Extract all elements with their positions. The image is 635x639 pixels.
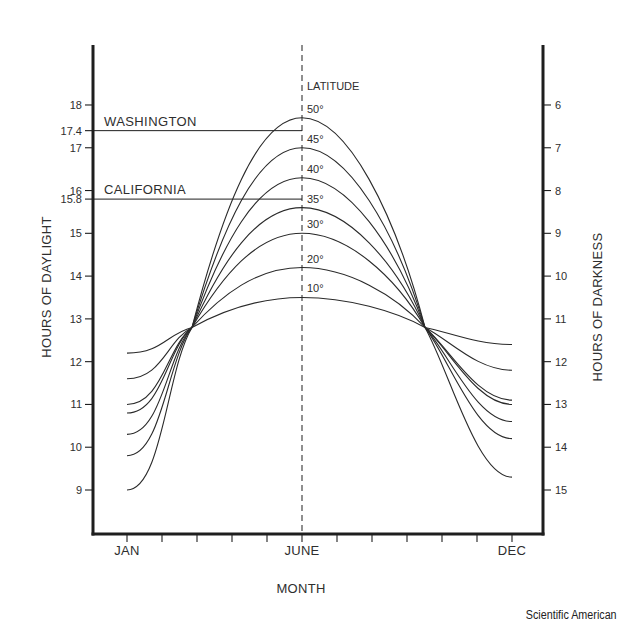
daylight-chart: 910111213141515.8161717.4186789101112131…: [0, 0, 635, 639]
credit-text: Scientific American: [526, 608, 617, 622]
chart-canvas: 910111213141515.8161717.4186789101112131…: [0, 0, 635, 639]
latitude-label-30: 30°: [307, 218, 324, 230]
right-tick-label: 12: [555, 356, 567, 368]
left-tick-label: 16: [70, 185, 82, 197]
left-tick-label: 12: [70, 356, 82, 368]
month-label-dec: DEC: [498, 543, 526, 558]
right-tick-label: 11: [555, 313, 566, 325]
left-tick-label: 9: [76, 484, 82, 496]
right-tick-label: 14: [555, 441, 567, 453]
left-tick-label: 18: [70, 99, 82, 111]
latitude-label-10: 10°: [307, 282, 324, 294]
left-tick-label: 14: [70, 270, 82, 282]
annotation-label-washington: WASHINGTON: [104, 114, 197, 129]
x-axis-title: MONTH: [276, 581, 325, 596]
annotation-label-california: CALIFORNIA: [104, 182, 186, 197]
latitude-heading: LATITUDE: [307, 80, 359, 92]
left-tick-label: 10: [70, 441, 82, 453]
curve-lat-10: [127, 297, 512, 353]
latitude-label-45: 45°: [307, 133, 324, 145]
y-axis-title-right: HOURS OF DARKNESS: [590, 233, 605, 382]
latitude-label-35: 35°: [307, 193, 324, 205]
latitude-label-50: 50°: [307, 103, 324, 115]
right-tick-label: 10: [555, 270, 567, 282]
latitude-label-40: 40°: [307, 163, 324, 175]
left-tick-label: 17: [70, 142, 82, 154]
right-tick-label: 13: [555, 398, 567, 410]
left-tick-label: 17.4: [61, 125, 82, 137]
right-tick-label: 6: [555, 99, 561, 111]
month-label-june: JUNE: [284, 543, 319, 558]
right-tick-label: 7: [555, 142, 561, 154]
chart-labels: 910111213141515.8161717.4186789101112131…: [39, 80, 605, 596]
right-tick-label: 15: [555, 484, 567, 496]
month-label-jan: JAN: [114, 543, 139, 558]
curve-lat-40: [127, 178, 512, 435]
left-tick-label: 11: [71, 398, 82, 410]
right-tick-label: 9: [555, 227, 561, 239]
left-tick-label: 15: [70, 227, 82, 239]
y-axis-title-left: HOURS OF DAYLIGHT: [39, 216, 54, 357]
latitude-label-20: 20°: [307, 253, 324, 265]
curve-lat-35: [127, 208, 512, 413]
left-tick-label: 13: [70, 313, 82, 325]
right-tick-label: 8: [555, 185, 561, 197]
